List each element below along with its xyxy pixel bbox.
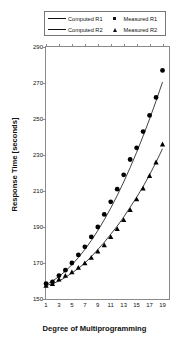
- chart-legend: Computed R1 Measured R1 Computed R2 Meas…: [44, 11, 166, 36]
- legend-line-icon-r2: [48, 29, 66, 30]
- x-tick-label: 13: [120, 299, 127, 308]
- data-point-measured-r2: [63, 273, 68, 278]
- data-point-measured-r1: [82, 244, 87, 249]
- legend-line-icon-r1: [48, 18, 66, 19]
- x-tick-label: 19: [159, 299, 166, 308]
- x-tick-label: 17: [146, 299, 153, 308]
- legend-label-computed-r2: Computed R2: [68, 27, 103, 33]
- legend-label-measured-r1: Measured R1: [124, 16, 158, 22]
- series-line-computed-r2: [46, 149, 163, 286]
- x-tick-label: 9: [96, 299, 99, 308]
- data-point-measured-r2: [89, 255, 94, 260]
- legend-square-icon-r1: [108, 17, 122, 20]
- data-point-measured-r2: [160, 142, 165, 147]
- x-tick-label: 1: [44, 299, 47, 308]
- data-point-measured-r2: [153, 160, 158, 165]
- data-point-measured-r1: [89, 235, 94, 240]
- y-axis-title: Response Time [seconds]: [10, 95, 19, 235]
- chart-root: Computed R1 Measured R1 Computed R2 Meas…: [0, 0, 189, 346]
- data-point-measured-r1: [128, 157, 133, 162]
- data-point-measured-r1: [134, 145, 139, 150]
- data-point-measured-r2: [141, 186, 146, 191]
- legend-label-computed-r1: Computed R1: [68, 16, 103, 22]
- data-point-measured-r1: [108, 199, 113, 204]
- data-point-measured-r1: [102, 212, 107, 217]
- data-point-measured-r1: [76, 253, 81, 258]
- legend-label-measured-r2: Measured R2: [124, 27, 158, 33]
- legend-row-r1: Computed R1 Measured R1: [45, 13, 165, 24]
- data-point-measured-r1: [160, 68, 165, 73]
- data-point-measured-r1: [115, 187, 120, 192]
- data-point-measured-r2: [147, 173, 152, 178]
- data-point-measured-r1: [69, 261, 74, 266]
- data-point-measured-r1: [95, 225, 100, 230]
- data-point-measured-r1: [147, 113, 152, 118]
- data-point-measured-r2: [134, 197, 139, 202]
- x-tick-label: 3: [57, 299, 60, 308]
- x-tick-label: 7: [83, 299, 86, 308]
- x-tick-label: 15: [133, 299, 140, 308]
- plot-area: 150170190210230250270290 135791113151719: [45, 46, 170, 300]
- x-tick-label: 5: [70, 299, 73, 308]
- data-point-measured-r1: [141, 129, 146, 134]
- data-point-measured-r1: [63, 268, 68, 273]
- data-point-measured-r1: [121, 172, 126, 177]
- x-tick-label: 11: [108, 299, 114, 308]
- legend-triangle-icon-r2: [108, 28, 122, 32]
- x-axis-title: Degree of Multiprogramming: [0, 324, 189, 333]
- legend-row-r2: Computed R2 Measured R2: [45, 24, 165, 35]
- data-point-measured-r1: [154, 95, 159, 100]
- plot-canvas: [46, 47, 169, 299]
